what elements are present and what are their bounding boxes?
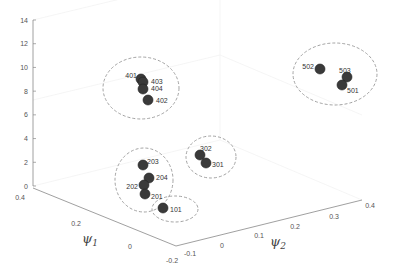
data-point (143, 95, 153, 105)
psi2-axis (176, 200, 362, 246)
z-tick-label: 12 (20, 40, 28, 47)
point-label: 404 (151, 85, 163, 92)
psi2-tick-label: 0.3 (329, 213, 339, 220)
point-label: 402 (156, 97, 168, 104)
data-point (139, 180, 149, 190)
data-point (201, 158, 211, 168)
psi2-axis-label: ψ2 (270, 234, 286, 251)
point-label: 301 (212, 161, 224, 168)
z-tick-label: 8 (24, 88, 28, 95)
psi2-tick-label: 0.2 (290, 223, 300, 230)
point-label: 403 (151, 78, 163, 85)
data-point (140, 189, 150, 199)
data-point (337, 80, 347, 90)
point-label: 101 (170, 206, 182, 213)
psi1-tick-label: -0.2 (166, 257, 178, 264)
z-tick-label: 2 (24, 159, 28, 166)
scatter-3d-plot: 024681012140.40.20-0.2-0.100.10.20.30.4 … (0, 0, 395, 271)
point-label: 202 (126, 183, 138, 190)
z-tick-label: 10 (20, 64, 28, 71)
tick-labels: 024681012140.40.20-0.2-0.100.10.20.30.4 (15, 17, 375, 265)
psi2-tick-label: 0.1 (254, 232, 264, 239)
point-label: 502 (302, 63, 314, 70)
z-tick-label: 4 (24, 135, 28, 142)
point-label: 203 (147, 158, 159, 165)
point-label: 503 (339, 67, 351, 74)
data-point (158, 203, 168, 213)
point-label: 204 (156, 174, 168, 181)
point-label: 401 (125, 72, 137, 79)
point-label: 201 (151, 193, 163, 200)
psi1-tick-label: 0.2 (71, 220, 81, 227)
psi1-axis-label: ψ1 (82, 231, 98, 248)
cluster-500-outline (293, 43, 377, 105)
point-label: 302 (200, 145, 212, 152)
data-point (315, 64, 325, 74)
point-label: 501 (347, 87, 359, 94)
axes (33, 20, 362, 246)
data-points: 1012032042022013023014014034044025025035… (125, 63, 358, 213)
psi2-tick-label: -0.1 (184, 250, 196, 257)
psi1-tick-label: 0 (128, 243, 132, 250)
psi2-tick-label: 0.4 (365, 202, 375, 209)
z-tick-label: 0 (24, 183, 28, 190)
data-point (138, 84, 148, 94)
psi2-tick-label: 0 (220, 242, 224, 249)
z-tick-label: 6 (24, 111, 28, 118)
z-tick-label: 14 (20, 17, 28, 24)
psi1-tick-label: 0.4 (15, 194, 25, 201)
